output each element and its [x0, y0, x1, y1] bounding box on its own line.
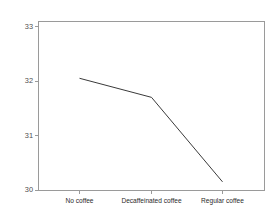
plot-area: 33 32 31 30 No coffee Decaffeinated coff… [0, 0, 279, 223]
y-tick-label-30: 30 [25, 185, 33, 194]
series-line-mean-value [80, 78, 223, 182]
line-chart: 33 32 31 30 No coffee Decaffeinated coff… [0, 0, 279, 223]
y-tick-label-32: 32 [25, 76, 33, 85]
plot-frame [39, 22, 265, 191]
x-category-label-no-coffee: No coffee [65, 197, 93, 204]
y-tick-label-31: 31 [25, 131, 33, 140]
y-tick-label-33: 33 [25, 22, 33, 31]
x-category-label-decaffeinated-coffee: Decaffeinated coffee [121, 197, 182, 204]
x-category-label-regular-coffee: Regular coffee [201, 197, 244, 205]
